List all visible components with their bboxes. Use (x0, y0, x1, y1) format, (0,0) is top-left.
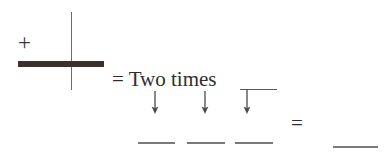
down-arrow-icon-3 (242, 89, 252, 112)
vertical-divider-line (71, 12, 72, 90)
down-arrow-icon-1 (150, 91, 160, 114)
equation-phrase: = Two times (112, 69, 217, 90)
blank-rule-answer (333, 146, 378, 148)
plus-sign: + (18, 31, 31, 54)
figure-canvas: + = Two times = (0, 0, 391, 153)
blank-rule-3 (235, 142, 273, 144)
blank-rule-2 (187, 142, 225, 144)
down-arrow-icon-2 (200, 91, 210, 114)
equals-sign-right: = (291, 113, 303, 134)
blank-rule-1 (138, 142, 175, 144)
fraction-bar (18, 61, 104, 67)
